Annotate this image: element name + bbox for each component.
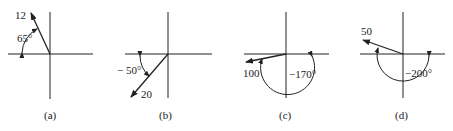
panel-a-axes	[8, 12, 93, 99]
vector-angle-diagram: 12 65° (a) − 50° 20 (b) 100 −170° (c) 50…	[0, 0, 453, 131]
panel-a-vector	[31, 13, 50, 54]
panel-a-caption: (a)	[44, 110, 56, 121]
panel-d-angle: −200°	[405, 68, 432, 79]
panel-c-vector	[246, 54, 286, 62]
panel-b-angle: − 50°	[117, 65, 141, 76]
panel-d-axes	[360, 12, 445, 98]
diagram-canvas	[0, 0, 453, 131]
panel-c-caption: (c)	[279, 110, 291, 121]
panel-b-axes	[125, 12, 212, 98]
panel-c-angle: −170°	[289, 69, 316, 80]
panel-b-magnitude: 20	[141, 89, 152, 100]
panel-a-angle: 65°	[17, 33, 32, 44]
panel-d-caption: (d)	[395, 110, 408, 121]
panel-d-magnitude: 50	[361, 26, 372, 37]
panel-b-caption: (b)	[159, 110, 172, 121]
panel-d-vector	[363, 40, 403, 54]
panel-c-magnitude: 100	[243, 68, 260, 79]
panel-a-magnitude: 12	[15, 10, 26, 21]
panel-c-axes	[244, 12, 329, 98]
